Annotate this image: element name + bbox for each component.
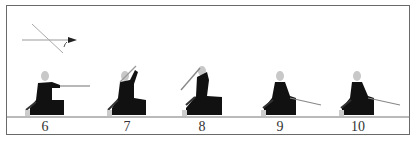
- figure-step-7: [107, 66, 146, 116]
- step-label-9: 9: [277, 119, 284, 135]
- figure-step-6: [25, 71, 90, 116]
- direction-arrow-diagram: [22, 24, 77, 53]
- step-label-6: 6: [42, 119, 49, 135]
- step-label-8: 8: [199, 119, 206, 135]
- figure-step-10: [339, 71, 400, 116]
- step-label-7: 7: [124, 119, 131, 135]
- figure-step-9: [261, 71, 321, 116]
- figure-step-8: [181, 66, 222, 116]
- step-label-10: 10: [351, 119, 365, 135]
